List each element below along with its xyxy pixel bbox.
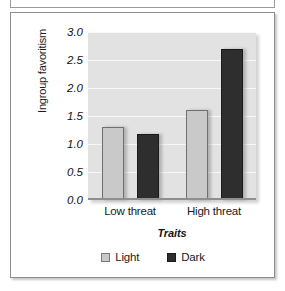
bar-high-threat-dark <box>221 49 243 200</box>
figure-page: Ingroup favoritism 0.00.51.01.52.02.53.0… <box>0 0 285 291</box>
y-axis-title: Ingroup favoritism <box>36 0 48 146</box>
y-tick-label: 2.0 <box>67 82 83 94</box>
legend-swatch-light-icon <box>101 253 110 262</box>
x-axis-title: Traits <box>88 227 256 239</box>
bar-group <box>172 32 256 200</box>
bar-high-threat-light <box>186 110 208 200</box>
y-tick-label: 0.0 <box>67 194 83 206</box>
bar-group <box>88 32 172 200</box>
bar-low-threat-dark <box>137 134 159 200</box>
legend-label: Light <box>115 251 139 263</box>
x-tick-label: Low threat <box>88 205 172 217</box>
top-border-strip <box>10 0 275 8</box>
y-tick-label: 0.5 <box>67 166 83 178</box>
bar-low-threat-light <box>102 127 124 200</box>
plot-wrapper: 0.00.51.01.52.02.53.0 <box>88 32 256 200</box>
y-tick-label: 3.0 <box>67 26 83 38</box>
bars-group <box>88 32 256 200</box>
y-tick-label: 2.5 <box>67 54 83 66</box>
chart-figure-card: Ingroup favoritism 0.00.51.01.52.02.53.0… <box>10 12 275 278</box>
chart-legend: LightDark <box>63 251 243 263</box>
y-tick-label: 1.0 <box>67 138 83 150</box>
legend-swatch-dark-icon <box>167 253 176 262</box>
legend-label: Dark <box>181 251 204 263</box>
legend-item-light[interactable]: Light <box>101 251 139 263</box>
legend-item-dark[interactable]: Dark <box>167 251 204 263</box>
x-tick-label: High threat <box>172 205 256 217</box>
x-axis-baseline <box>88 198 256 200</box>
y-tick-label: 1.5 <box>67 110 83 122</box>
plot-area <box>88 32 256 200</box>
